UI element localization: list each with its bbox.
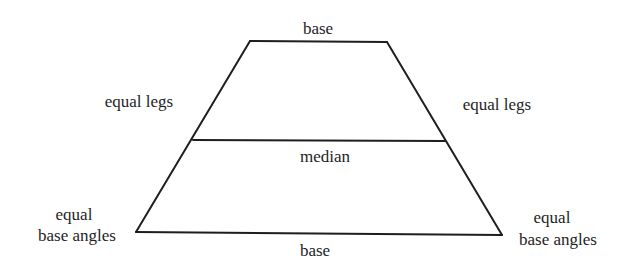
right-angle-label-line1: equal	[534, 208, 571, 227]
top-base-line	[250, 41, 387, 42]
bottom-base-label: base	[300, 241, 330, 260]
median-label: median	[300, 147, 351, 166]
isosceles-trapezoid-diagram: base equal legs equal legs median equal …	[0, 0, 633, 271]
left-angle-label-line1: equal	[56, 205, 93, 224]
left-leg-label: equal legs	[105, 92, 173, 111]
left-leg-line	[136, 41, 250, 232]
top-base-label: base	[303, 19, 333, 38]
median-line	[193, 140, 445, 141]
right-angle-label-line2: base angles	[519, 230, 597, 249]
left-angle-label-line2: base angles	[38, 226, 116, 245]
right-leg-line	[387, 42, 502, 235]
bottom-base-line	[136, 232, 502, 235]
right-leg-label: equal legs	[463, 95, 531, 114]
